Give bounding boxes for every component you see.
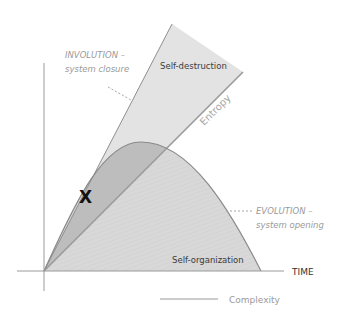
- x-marker: X: [79, 187, 92, 207]
- complexity-entropy-diagram: Self-destruction Self-organization Entro…: [0, 0, 347, 318]
- self-organization-label: Self-organization: [172, 255, 244, 265]
- evolution-subtitle: system opening: [256, 220, 324, 230]
- involution-title: INVOLUTION –: [65, 50, 125, 60]
- evolution-title: EVOLUTION –: [256, 206, 313, 216]
- involution-subtitle: system closure: [65, 64, 129, 74]
- x-axis-label: TIME: [291, 267, 314, 277]
- involution-leader-line: [108, 87, 131, 100]
- complexity-legend-label: Complexity: [229, 295, 281, 305]
- self-destruction-label: Self-destruction: [160, 61, 227, 71]
